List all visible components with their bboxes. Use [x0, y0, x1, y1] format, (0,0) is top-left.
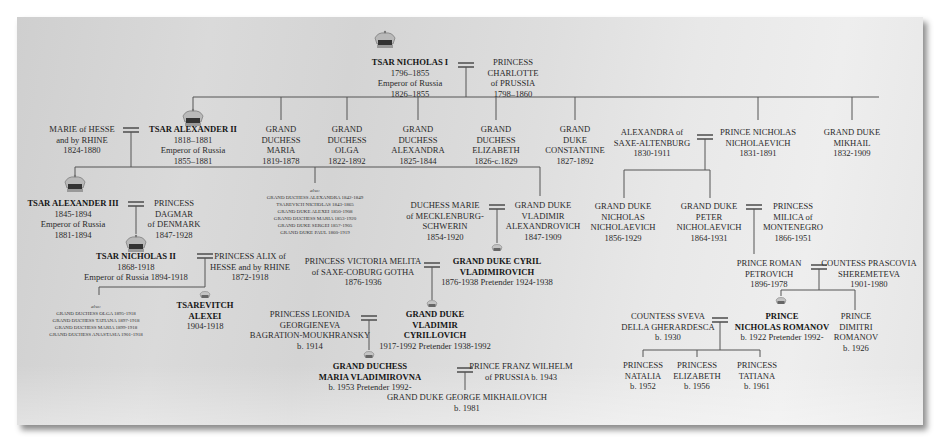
- crown-icon: [198, 290, 212, 300]
- person-nicholas-nicholaevich: PRINCE NICHOLAS NICHOLAEVICH 1831-1891: [720, 127, 796, 159]
- person-leonida: PRINCESS LEONIDA GEORGIENEVA BAGRATION-M…: [250, 309, 370, 351]
- person-alexander-ii: TSAR ALEXANDER II 1818–1881 Emperor of R…: [149, 124, 237, 166]
- person-vladimir-alexandrovich: GRAND DUKE VLADIMIR ALEXANDROVICH 1847-1…: [506, 200, 580, 242]
- person-gd-peter: GRAND DUKE PETER NICHOLAEVICH 1864-1931: [677, 201, 742, 243]
- person-gd-nicholas-nicholaevich: GRAND DUKE NICHOLAS NICHOLAEVICH 1856-19…: [591, 201, 656, 243]
- person-cyril: GRAND DUKE CYRIL VLADIMIROVICH 1876-1938…: [441, 256, 553, 288]
- also-children-alexander-ii: also: GRAND DUCHESS ALEXANDRA 1842-1849 …: [267, 187, 364, 236]
- person-maria-vladimirovna: GRAND DUCHESS MARIA VLADIMIROVNA b. 1953…: [319, 361, 421, 393]
- crown-icon: [362, 350, 376, 360]
- person-dagmar: PRINCESS DAGMAR of DENMARK 1847-1928: [148, 198, 201, 240]
- person-alix: PRINCESS ALIX of HESSE and by RHINE 1872…: [210, 251, 290, 283]
- person-gd-elizabeth: GRAND DUCHESS ELIZABETH 1826-c.1829: [472, 124, 519, 166]
- person-nicholas-ii: TSAR NICHOLAS II 1868-1918 Emperor of Ru…: [84, 251, 188, 283]
- crown-icon: [425, 299, 439, 309]
- person-natalia: PRINCESS NATALIA b. 1952: [623, 360, 663, 392]
- crown-icon: [774, 296, 788, 306]
- person-victoria-melita: PRINCESS VICTORIA MELITA of SAXE-COBURG …: [305, 256, 421, 288]
- person-gd-alexandra: GRAND DUCHESS ALEXANDRA 1825-1844: [391, 124, 444, 166]
- person-milica: PRINCESS MILICA of MONTENEGRO 1866-1951: [763, 201, 823, 243]
- person-gd-olga: GRAND DUCHESS OLGA 1822-1892: [327, 124, 366, 166]
- crown-icon: [372, 30, 398, 50]
- person-gd-constantine: GRAND DUKE CONSTANTINE 1827-1892: [545, 124, 604, 166]
- person-dimitri: PRINCE DIMITRI ROMANOV b. 1926: [834, 311, 878, 353]
- person-alexandra-saxe: ALEXANDRA of SAXE-ALTENBURG 1830-1911: [614, 127, 691, 159]
- person-marie-hesse: MARIE of HESSE and by RHINE 1824-1880: [49, 124, 114, 156]
- person-franz-wilhelm: PRINCE FRANZ WILHELM of PRUSSIA b. 1943: [469, 361, 572, 382]
- person-marie-mecklenburg: DUCHESS MARIE of MECKLENBURG- SCHWERIN 1…: [406, 200, 484, 242]
- person-gd-maria: GRAND DUCHESS MARIA 1819-1878: [261, 124, 300, 166]
- person-nicholas-i: TSAR NICHOLAS I 1796–1855 Emperor of Rus…: [372, 57, 448, 99]
- person-gd-mikhail: GRAND DUKE MIKHAIL 1832-1909: [824, 127, 881, 159]
- person-charlotte: PRINCESS CHARLOTTE of PRUSSIA 1798–1860: [487, 57, 538, 99]
- person-alexei: TSAREVITCH ALEXEI 1904-1918: [177, 300, 234, 332]
- person-nicholas-romanov: PRINCE NICHOLAS ROMANOV b. 1922 Pretende…: [735, 311, 829, 343]
- crown-icon: [490, 243, 504, 253]
- also-children-nicholas-ii: also: GRAND DUCHESS OLGA 1895-1918 GRAND…: [49, 303, 142, 338]
- person-prascovia: COUNTESS PRASCOVIA SHEREMETEVA 1901-1980: [821, 258, 916, 290]
- person-tatiana: PRINCESS TATIANA b. 1961: [737, 360, 777, 392]
- person-george: GRAND DUKE GEORGE MIKHAILOVICH b. 1981: [387, 392, 547, 413]
- person-vladimir-cyrillovich: GRAND DUKE VLADIMIR CYRILLOVICH 1917-199…: [379, 309, 491, 351]
- person-sveva: COUNTESS SVEVA DELLA GHERARDESCA b. 1930: [621, 311, 714, 343]
- person-elizabeth: PRINCESS ELIZABETH b. 1956: [673, 360, 720, 392]
- person-roman: PRINCE ROMAN PETROVICH 1896-1978: [737, 258, 802, 290]
- crown-icon: [62, 174, 88, 194]
- person-alexander-iii: TSAR ALEXANDER III 1845-1894 Emperor of …: [27, 198, 118, 240]
